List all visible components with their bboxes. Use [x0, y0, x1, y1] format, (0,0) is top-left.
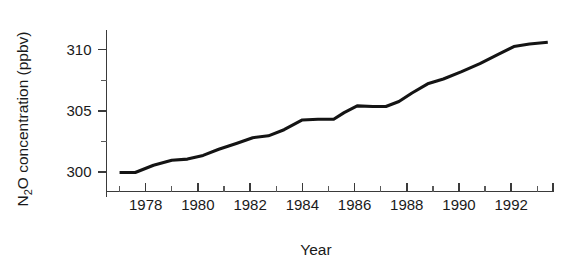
x-tick-label: 1984 [286, 196, 319, 213]
x-tick-label: 1986 [338, 196, 371, 213]
chart-figure: 3003053101978198019821984198619881990199… [0, 0, 574, 269]
x-tick-label: 1980 [181, 196, 214, 213]
x-tick-label: 1990 [442, 196, 475, 213]
x-tick-label: 1982 [233, 196, 266, 213]
line-chart: 3003053101978198019821984198619881990199… [0, 0, 574, 269]
x-tick-label: 1988 [390, 196, 423, 213]
y-tick-label: 305 [66, 102, 91, 119]
x-tick-label: 1978 [129, 196, 162, 213]
y-tick-label: 310 [66, 41, 91, 58]
x-axis-title: Year [300, 241, 331, 258]
chart-data-series [120, 42, 548, 172]
chart-axes [98, 30, 554, 197]
y-axis-title-post: O concentration (ppbv) [14, 32, 31, 190]
y-axis-title-pre: N [14, 195, 31, 206]
data-series-line [120, 42, 548, 172]
x-tick-label: 1992 [495, 196, 528, 213]
y-axis-title: N2O concentration (ppbv) [14, 32, 34, 207]
y-tick-label: 300 [66, 163, 91, 180]
